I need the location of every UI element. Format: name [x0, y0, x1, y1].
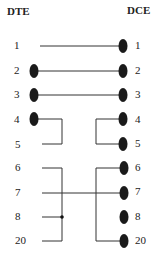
dce-dot-7	[120, 186, 129, 200]
wiring-diagram	[0, 0, 161, 257]
dte-dot-3	[30, 88, 39, 102]
dce-dot-4	[119, 112, 128, 126]
dte-loop-4-5	[34, 119, 62, 144]
junction-dot	[60, 215, 64, 219]
dte-dot-4	[30, 112, 39, 126]
dce-dot-1	[119, 39, 128, 53]
dce-dot-6	[120, 161, 129, 175]
dce-dot-20	[120, 234, 129, 248]
dce-dot-3	[119, 88, 128, 102]
dte-bridge-6-8-20	[42, 168, 62, 241]
dte-dot-2	[30, 64, 39, 78]
dce-dot-2	[119, 64, 128, 78]
dce-bridge-6-20	[96, 168, 122, 241]
dce-dot-8	[120, 210, 129, 224]
dce-dot-5	[119, 137, 128, 151]
dce-loop-4-5	[96, 119, 122, 144]
wires	[34, 46, 122, 241]
